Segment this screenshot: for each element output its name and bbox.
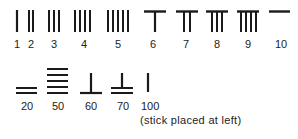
rod-numeral-8-glyph — [206, 10, 228, 32]
rod-numeral-7-glyph — [176, 10, 198, 32]
rod-numeral-60-glyph — [80, 73, 102, 95]
rod-numeral-6-glyph — [144, 10, 166, 32]
label-70: 70 — [112, 100, 134, 112]
rod-numeral-100-glyph — [144, 73, 152, 92]
label-2: 2 — [23, 38, 39, 50]
label-6: 6 — [145, 38, 161, 50]
rod-numeral-2-glyph — [26, 10, 36, 32]
rod-numeral-20-glyph — [16, 86, 37, 95]
label-100: 100 — [141, 100, 165, 112]
label-7: 7 — [178, 38, 194, 50]
rod-numeral-50-glyph — [47, 67, 68, 95]
rod-numeral-4-glyph — [72, 10, 92, 32]
rod-numeral-70-glyph — [111, 73, 133, 95]
label-5: 5 — [110, 38, 126, 50]
rod-numeral-10-glyph — [269, 9, 290, 14]
label-8: 8 — [209, 38, 225, 50]
label-9: 9 — [240, 38, 256, 50]
label-20: 20 — [16, 100, 38, 112]
rod-numeral-9-glyph — [237, 10, 259, 32]
rod-numeral-5-glyph — [105, 10, 131, 32]
label-3: 3 — [46, 38, 62, 50]
label-60: 60 — [80, 100, 102, 112]
caption-stick-placed-at-left: (stick placed at left) — [140, 114, 241, 126]
label-10: 10 — [271, 38, 291, 50]
label-4: 4 — [76, 38, 92, 50]
rod-numeral-3-glyph — [46, 10, 62, 32]
rod-numeral-1-glyph — [13, 10, 21, 32]
label-50: 50 — [47, 100, 69, 112]
